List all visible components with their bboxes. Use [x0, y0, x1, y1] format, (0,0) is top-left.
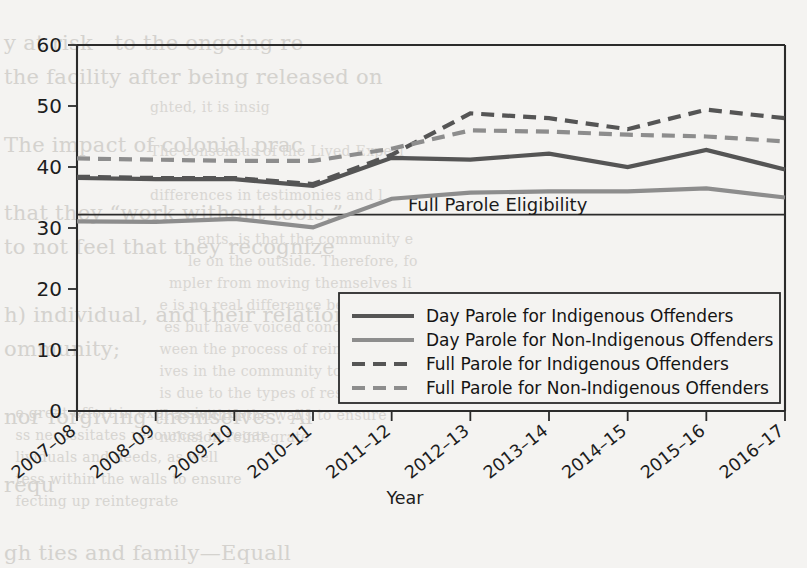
x-tick-label: 2016–17	[716, 420, 788, 482]
y-tick-label: 50	[37, 94, 62, 118]
legend-label-1: Day Parole for Non-Indigenous Offenders	[426, 330, 774, 350]
x-tick-label: 2011–12	[322, 420, 394, 482]
y-tick-label: 60	[37, 33, 62, 57]
x-tick-label: 2010–11	[244, 420, 316, 482]
y-tick-label: 30	[37, 216, 62, 240]
x-tick-label: 2009–10	[165, 420, 237, 482]
legend-label-0: Day Parole for Indigenous Offenders	[426, 306, 734, 326]
y-axis: 0102030405060	[37, 33, 77, 423]
x-tick-label: 2007–08	[8, 420, 80, 482]
chart-legend: Day Parole for Indigenous OffendersDay P…	[339, 293, 780, 403]
x-tick-label: 2008–09	[86, 420, 158, 482]
x-tick-label: 2013–14	[480, 420, 552, 482]
series-line-0	[77, 150, 785, 186]
x-axis-ticks	[77, 411, 785, 421]
x-tick-label: 2012–13	[401, 420, 473, 482]
y-tick-label: 10	[37, 338, 62, 362]
y-tick-label: 40	[37, 155, 62, 179]
x-tick-label: 2015–16	[637, 420, 709, 482]
x-axis-title: Year	[385, 488, 424, 508]
series-line-2	[77, 110, 785, 184]
x-axis-labels: 2007–082008–092009–102010–112011–122012–…	[8, 420, 788, 482]
y-tick-label: 20	[37, 277, 62, 301]
legend-label-2: Full Parole for Indigenous Offenders	[426, 354, 729, 374]
y-tick-label: 0	[49, 399, 62, 423]
legend-label-3: Full Parole for Non-Indigenous Offenders	[426, 378, 769, 398]
x-tick-label: 2014–15	[558, 420, 630, 482]
